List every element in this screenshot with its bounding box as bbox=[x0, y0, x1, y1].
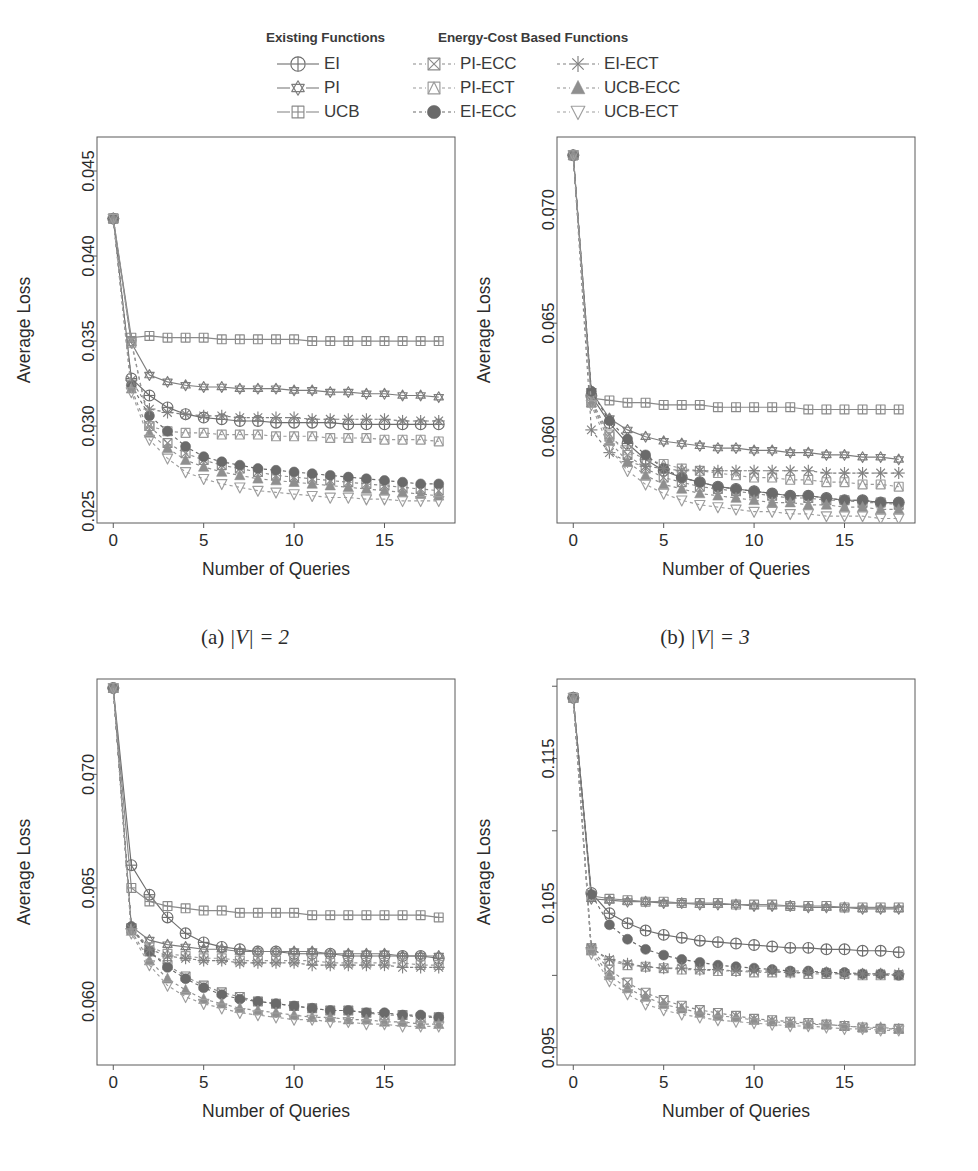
legend-item-label: EI bbox=[324, 54, 340, 74]
svg-text:0.035: 0.035 bbox=[79, 320, 97, 361]
legend-item-ei: EI bbox=[272, 52, 359, 76]
x-axis-label: Number of Queries bbox=[202, 559, 350, 579]
svg-text:10: 10 bbox=[285, 531, 304, 550]
svg-text:0.065: 0.065 bbox=[539, 303, 557, 344]
caption-a: (a) |V| = 2 bbox=[0, 625, 490, 650]
svg-text:0.045: 0.045 bbox=[79, 150, 97, 191]
legend-item-label: PI-ECC bbox=[460, 54, 516, 74]
legend-item-label: UCB-ECT bbox=[604, 102, 678, 122]
legend: Existing Functions Energy-Cost Based Fun… bbox=[0, 30, 978, 130]
x-axis-label: Number of Queries bbox=[662, 559, 810, 579]
svg-text:0: 0 bbox=[569, 1073, 578, 1092]
svg-text:5: 5 bbox=[199, 1073, 208, 1092]
legend-item-ei-ecc: EI-ECC bbox=[408, 100, 516, 124]
y-axis-label: Average Loss bbox=[14, 276, 34, 383]
legend-item-pi-ecc: PI-ECC bbox=[408, 52, 516, 76]
legend-item-label: PI bbox=[324, 78, 340, 98]
svg-text:10: 10 bbox=[285, 1073, 304, 1092]
caption-expression: |V| = 5 bbox=[690, 1167, 750, 1171]
caption-prefix: (d) bbox=[660, 1167, 690, 1171]
svg-text:0.060: 0.060 bbox=[79, 981, 97, 1022]
panel-a: 0.0250.0300.0350.0400.045051015Number of… bbox=[0, 130, 490, 610]
svg-text:0.060: 0.060 bbox=[539, 416, 557, 457]
caption-c: (c) |V| = 4 bbox=[0, 1167, 490, 1171]
legend-item-label: EI-ECT bbox=[604, 54, 659, 74]
circle-cross-icon bbox=[272, 52, 324, 76]
chart-c: 0.0600.0650.070051015Number of QueriesAv… bbox=[0, 672, 490, 1152]
legend-column-energy-a: PI-ECCPI-ECTEI-ECC bbox=[408, 52, 516, 124]
svg-text:5: 5 bbox=[659, 1073, 668, 1092]
figure-root: Existing Functions Energy-Cost Based Fun… bbox=[0, 0, 978, 1171]
legend-heading-energy-cost: Energy-Cost Based Functions bbox=[438, 30, 628, 45]
svg-text:0: 0 bbox=[109, 1073, 118, 1092]
square-triangle-icon bbox=[408, 76, 460, 100]
legend-item-pi: PI bbox=[272, 76, 359, 100]
legend-column-existing: EIPIUCB bbox=[272, 52, 359, 124]
svg-text:15: 15 bbox=[375, 531, 394, 550]
svg-text:5: 5 bbox=[659, 531, 668, 550]
legend-item-ucb-ect: UCB-ECT bbox=[552, 100, 680, 124]
svg-text:15: 15 bbox=[375, 1073, 394, 1092]
legend-item-label: UCB bbox=[324, 102, 359, 122]
caption-prefix: (b) bbox=[660, 625, 690, 649]
legend-item-label: EI-ECC bbox=[460, 102, 516, 122]
panel-c: 0.0600.0650.070051015Number of QueriesAv… bbox=[0, 672, 490, 1152]
caption-expression: |V| = 4 bbox=[230, 1167, 290, 1171]
plot-c: 0.0600.0650.070051015Number of QueriesAv… bbox=[0, 672, 490, 1152]
caption-b: (b) |V| = 3 bbox=[460, 625, 950, 650]
caption-expression: |V| = 2 bbox=[230, 625, 290, 649]
svg-text:0.025: 0.025 bbox=[79, 490, 97, 531]
legend-item-label: PI-ECT bbox=[460, 78, 515, 98]
caption-prefix: (a) bbox=[201, 625, 230, 649]
x-axis-label: Number of Queries bbox=[202, 1101, 350, 1121]
svg-text:0.115: 0.115 bbox=[539, 738, 557, 778]
legend-item-pi-ect: PI-ECT bbox=[408, 76, 516, 100]
legend-item-ucb-ecc: UCB-ECC bbox=[552, 76, 680, 100]
svg-text:0: 0 bbox=[109, 531, 118, 550]
hexagram-icon bbox=[272, 76, 324, 100]
square-cross-icon bbox=[272, 100, 324, 124]
svg-text:15: 15 bbox=[835, 531, 854, 550]
svg-text:0.105: 0.105 bbox=[539, 882, 557, 923]
legend-item-label: UCB-ECC bbox=[604, 78, 680, 98]
legend-column-energy-b: EI-ECTUCB-ECCUCB-ECT bbox=[552, 52, 680, 124]
svg-text:0.095: 0.095 bbox=[539, 1027, 557, 1068]
panel-b: 0.0600.0650.070051015Number of QueriesAv… bbox=[460, 130, 950, 610]
open-down-triangle-icon bbox=[552, 100, 604, 124]
svg-text:10: 10 bbox=[745, 531, 764, 550]
panel-d: 0.0950.1050.115051015Number of QueriesAv… bbox=[460, 672, 950, 1152]
legend-heading-existing: Existing Functions bbox=[266, 30, 385, 45]
svg-text:0.040: 0.040 bbox=[79, 235, 97, 276]
caption-d: (d) |V| = 5 bbox=[460, 1167, 950, 1171]
asterisk-icon bbox=[552, 52, 604, 76]
legend-item-ei-ect: EI-ECT bbox=[552, 52, 680, 76]
plot-d: 0.0950.1050.115051015Number of QueriesAv… bbox=[460, 672, 950, 1152]
legend-item-ucb: UCB bbox=[272, 100, 359, 124]
y-axis-label: Average Loss bbox=[474, 276, 494, 383]
caption-expression: |V| = 3 bbox=[690, 625, 750, 649]
plot-a: 0.0250.0300.0350.0400.045051015Number of… bbox=[0, 130, 490, 610]
svg-text:5: 5 bbox=[199, 531, 208, 550]
svg-text:0: 0 bbox=[569, 531, 578, 550]
chart-b: 0.0600.0650.070051015Number of QueriesAv… bbox=[460, 130, 950, 610]
svg-text:0.065: 0.065 bbox=[79, 867, 97, 908]
plot-b: 0.0600.0650.070051015Number of QueriesAv… bbox=[460, 130, 950, 610]
svg-text:0.030: 0.030 bbox=[79, 405, 97, 446]
square-x-icon bbox=[408, 52, 460, 76]
svg-text:0.070: 0.070 bbox=[79, 754, 97, 795]
svg-text:10: 10 bbox=[745, 1073, 764, 1092]
chart-a: 0.0250.0300.0350.0400.045051015Number of… bbox=[0, 130, 490, 610]
filled-circle-icon bbox=[408, 100, 460, 124]
y-axis-label: Average Loss bbox=[14, 818, 34, 925]
x-axis-label: Number of Queries bbox=[662, 1101, 810, 1121]
chart-d: 0.0950.1050.115051015Number of QueriesAv… bbox=[460, 672, 950, 1152]
caption-prefix: (c) bbox=[201, 1167, 230, 1171]
svg-text:0.070: 0.070 bbox=[539, 189, 557, 230]
svg-text:15: 15 bbox=[835, 1073, 854, 1092]
y-axis-label: Average Loss bbox=[474, 818, 494, 925]
filled-triangle-icon bbox=[552, 76, 604, 100]
